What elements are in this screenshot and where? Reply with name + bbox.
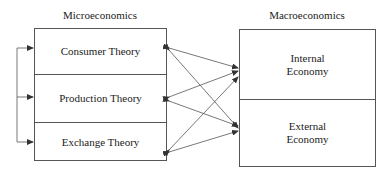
arrow-consumer-internal bbox=[169, 48, 238, 68]
arrow-production-internal bbox=[169, 71, 238, 97]
connection-arrows bbox=[0, 0, 389, 176]
arrow-exchange-external bbox=[169, 131, 238, 152]
arrow-exchange-internal bbox=[169, 77, 238, 150]
feedback-bracket bbox=[17, 48, 33, 142]
arrow-consumer-external bbox=[169, 50, 238, 128]
